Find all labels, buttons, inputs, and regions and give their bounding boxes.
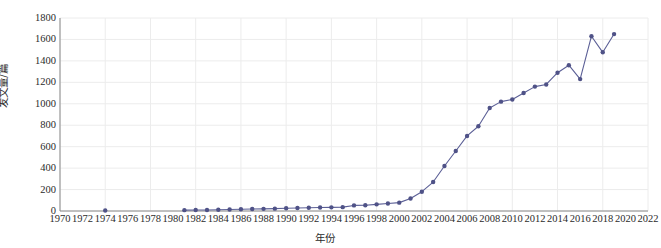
data-point-marker	[578, 77, 582, 81]
x-axis-tick-label: 2014	[547, 214, 568, 225]
data-point-marker	[363, 203, 367, 207]
data-point-marker	[261, 207, 265, 211]
data-point-marker	[227, 207, 231, 211]
x-axis-tick-label: 2020	[615, 214, 636, 225]
y-axis-tick-label: 400	[40, 163, 56, 174]
data-point-marker	[340, 205, 344, 209]
x-axis-tick-label: 2000	[389, 214, 410, 225]
x-axis-tick-label: 1980	[163, 214, 184, 225]
x-axis-tick-label: 1984	[208, 214, 229, 225]
data-point-marker	[284, 206, 288, 210]
data-point-marker	[374, 202, 378, 206]
x-axis-tick-label: 1998	[366, 214, 387, 225]
x-axis-tick-label: 1974	[95, 214, 116, 225]
data-point-marker	[205, 208, 209, 212]
data-point-marker	[567, 63, 571, 67]
data-point-marker	[182, 208, 186, 212]
data-point-marker	[544, 82, 548, 86]
data-point-marker	[555, 70, 559, 74]
y-axis-tick-label: 800	[40, 120, 56, 131]
y-axis-tick-label: 1800	[35, 13, 56, 24]
data-point-marker	[239, 207, 243, 211]
y-axis-tick-label: 1600	[35, 34, 56, 45]
y-axis-tick-label: 600	[40, 141, 56, 152]
x-axis-tick-label: 1988	[253, 214, 274, 225]
x-axis-tick-label: 1976	[117, 214, 138, 225]
data-point-marker	[476, 124, 480, 128]
x-axis-tick-label: 1970	[50, 214, 71, 225]
x-axis-tick-label: 2016	[570, 214, 591, 225]
x-axis-tick-label: 1996	[344, 214, 365, 225]
data-point-marker	[601, 50, 605, 54]
y-axis-tick-labels: 020040060080010001200140016001800	[0, 18, 56, 211]
data-point-marker	[318, 205, 322, 209]
y-axis-tick-label: 1200	[35, 77, 56, 88]
data-point-marker	[465, 134, 469, 138]
y-axis-tick-label: 1400	[35, 56, 56, 67]
data-point-marker	[397, 200, 401, 204]
x-axis-tick-label: 2022	[638, 214, 659, 225]
publication-trend-chart: 发文量/篇 020040060080010001200140016001800 …	[0, 0, 661, 248]
scan-artifact	[0, 0, 661, 10]
x-axis-title-label: 年份	[315, 230, 335, 245]
x-axis-tick-label: 2006	[457, 214, 478, 225]
x-axis-title: 年份	[0, 230, 661, 245]
data-point-marker	[431, 180, 435, 184]
y-axis-tick-label: 200	[40, 184, 56, 195]
x-axis-tick-label: 1978	[140, 214, 161, 225]
x-axis-tick-label: 2012	[524, 214, 545, 225]
data-point-marker	[408, 196, 412, 200]
data-series	[60, 18, 648, 211]
plot-area	[60, 18, 648, 211]
data-point-marker	[352, 203, 356, 207]
data-point-marker	[386, 201, 390, 205]
series-line	[184, 34, 614, 210]
data-point-marker	[510, 97, 514, 101]
x-axis-tick-label: 1994	[321, 214, 342, 225]
x-axis-tick-label: 1992	[298, 214, 319, 225]
data-point-marker	[612, 32, 616, 36]
data-point-marker	[442, 164, 446, 168]
x-axis-tick-label: 1972	[72, 214, 93, 225]
data-point-marker	[216, 208, 220, 212]
x-axis-tick-label: 2002	[411, 214, 432, 225]
x-axis-tick-label: 1982	[185, 214, 206, 225]
x-axis-tick-label: 2008	[479, 214, 500, 225]
data-point-marker	[533, 84, 537, 88]
data-point-marker	[589, 34, 593, 38]
data-point-marker	[193, 208, 197, 212]
data-point-marker	[295, 206, 299, 210]
x-axis-tick-label: 2018	[592, 214, 613, 225]
data-point-marker	[250, 207, 254, 211]
y-axis-tick-label: 1000	[35, 99, 56, 110]
data-point-marker	[307, 206, 311, 210]
x-axis-tick-label: 2010	[502, 214, 523, 225]
data-point-marker	[273, 206, 277, 210]
data-point-marker	[454, 149, 458, 153]
data-point-marker	[487, 106, 491, 110]
data-point-marker	[420, 190, 424, 194]
data-point-marker	[499, 99, 503, 103]
x-axis-tick-label: 2004	[434, 214, 455, 225]
x-axis-tick-label: 1986	[230, 214, 251, 225]
data-point-marker	[329, 205, 333, 209]
data-point-marker	[521, 91, 525, 95]
x-axis-tick-labels: 1970197219741976197819801982198419861988…	[60, 214, 648, 230]
x-axis-tick-label: 1990	[276, 214, 297, 225]
